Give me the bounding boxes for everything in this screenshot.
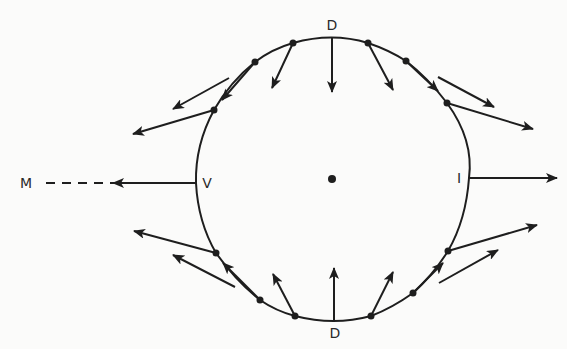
label-m: M bbox=[20, 175, 32, 191]
boundary-dot bbox=[292, 313, 299, 320]
bottom-arc bbox=[216, 251, 448, 321]
label-v: V bbox=[202, 175, 212, 191]
arrow-bot-r2 bbox=[413, 263, 443, 293]
boundary-dot bbox=[410, 290, 417, 297]
arrow-top-l-free bbox=[173, 78, 229, 109]
arrow-top-l2 bbox=[222, 62, 255, 100]
label-i: I bbox=[457, 170, 461, 186]
arrow-left-upper bbox=[133, 110, 214, 134]
boundary-dot bbox=[403, 58, 410, 65]
boundary-dot bbox=[252, 59, 259, 66]
boundary-dot bbox=[445, 248, 452, 255]
diagram-canvas: D D V I M bbox=[0, 0, 567, 349]
boundary-dot bbox=[365, 40, 372, 47]
boundary-dot bbox=[368, 313, 375, 320]
boundary-dot bbox=[213, 250, 220, 257]
boundary-dot bbox=[444, 100, 451, 107]
arrow-bot-r1 bbox=[371, 272, 393, 316]
arrow-right-lower bbox=[448, 225, 537, 251]
arrow-bot-l-free bbox=[173, 255, 235, 287]
label-bottom-d: D bbox=[330, 325, 341, 341]
boundary-dot bbox=[211, 107, 218, 114]
center-point bbox=[328, 175, 336, 183]
boundary-dot bbox=[257, 297, 264, 304]
arrow-bot-r-free bbox=[439, 250, 498, 283]
boundary-dot bbox=[290, 40, 297, 47]
arrow-top-r1 bbox=[368, 43, 393, 90]
arrow-top-r2 bbox=[406, 61, 438, 91]
arrow-bot-l2 bbox=[223, 263, 260, 300]
arrow-left-lower bbox=[134, 231, 216, 253]
top-arc bbox=[214, 38, 447, 111]
label-top-d: D bbox=[327, 17, 338, 33]
